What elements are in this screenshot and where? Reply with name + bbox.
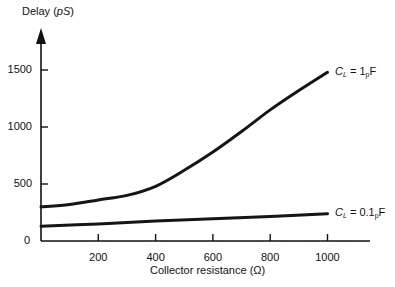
- y-axis-arrow-icon: [36, 28, 46, 44]
- x-tick-label: 400: [136, 251, 176, 263]
- curve-cl-0-1pf: [41, 214, 328, 227]
- x-tick-label: 1000: [308, 251, 348, 263]
- y-tick-label: 1000: [2, 120, 32, 132]
- y-tick-label: 1500: [2, 63, 32, 75]
- y-axis-label: Delay (pS): [22, 5, 74, 17]
- x-tick-label: 200: [78, 251, 118, 263]
- x-tick-label: 800: [250, 251, 290, 263]
- plot-area: [0, 0, 395, 287]
- y-tick-label: 500: [2, 177, 32, 189]
- x-axis-label: Collector resistance (Ω): [150, 264, 265, 276]
- curve-cl-1pf: [41, 72, 328, 207]
- data-series: [41, 72, 328, 226]
- series-label-0-1pf: CL = 0.1pF: [335, 206, 385, 219]
- delay-vs-resistance-chart: Delay (pS) Collector resistance (Ω) 0500…: [0, 0, 395, 287]
- x-tick-label: 600: [193, 251, 233, 263]
- series-label-1pf: CL = 1pF: [335, 65, 376, 78]
- y-tick-label: 0: [0, 234, 30, 246]
